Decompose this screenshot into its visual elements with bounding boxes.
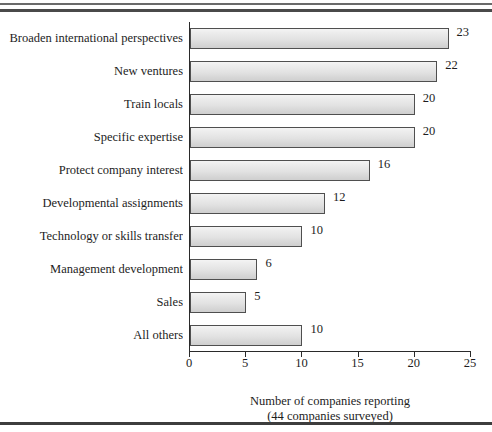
category-label: Sales [0,286,183,319]
bar-value-label: 10 [310,220,323,241]
bar-value-label: 5 [254,286,260,307]
bar [190,61,437,82]
bar-fill [190,292,246,313]
x-tick-label: 0 [169,356,209,371]
bar [190,226,302,247]
bar-row: Protect company interest16 [0,154,492,187]
bar-fill [190,94,415,115]
category-label: Protect company interest [0,154,183,187]
bottom-rule [0,422,492,425]
x-tick-label: 10 [281,356,321,371]
category-label: Developmental assignments [0,187,183,220]
caption-line-1: Number of companies reporting [189,394,471,409]
bar-value-label: 16 [378,154,391,175]
bar [190,325,302,346]
bar-fill [190,193,325,214]
x-tick-label: 25 [450,356,490,371]
bar-row: Train locals20 [0,88,492,121]
x-tick-label: 20 [394,356,434,371]
bar-fill [190,325,302,346]
bar-value-label: 20 [423,121,436,142]
bar-row: Specific expertise20 [0,121,492,154]
x-tick-label: 15 [338,356,378,371]
bar-row: Developmental assignments12 [0,187,492,220]
bar-row: Broaden international perspectives23 [0,22,492,55]
top-rule-upper [0,3,492,5]
bar-row: Technology or skills transfer10 [0,220,492,253]
bar-value-label: 6 [265,253,271,274]
bar-fill [190,61,437,82]
bar-value-label: 23 [457,22,470,43]
bar [190,259,257,280]
bar [190,94,415,115]
bar [190,193,325,214]
bar-fill [190,28,449,49]
bar-fill [190,127,415,148]
category-label: Technology or skills transfer [0,220,183,253]
bar [190,28,449,49]
bar-row: Management development6 [0,253,492,286]
top-rule-lower [0,9,492,12]
category-label: Broaden international perspectives [0,22,183,55]
category-label: All others [0,319,183,352]
bar-value-label: 20 [423,88,436,109]
axis-caption: Number of companies reporting (44 compan… [189,394,471,424]
bar-value-label: 22 [445,55,458,76]
bar-row: All others10 [0,319,492,352]
category-label: New ventures [0,55,183,88]
category-label: Specific expertise [0,121,183,154]
bar-fill [190,160,370,181]
x-tick-label: 5 [225,356,265,371]
bar [190,292,246,313]
bar-value-label: 12 [333,187,346,208]
plot-area: Broaden international perspectives23New … [0,18,492,358]
bar-row: Sales5 [0,286,492,319]
bar [190,127,415,148]
bar-row: New ventures22 [0,55,492,88]
figure-container: Broaden international perspectives23New … [0,0,492,432]
category-label: Management development [0,253,183,286]
bar [190,160,370,181]
bar-value-label: 10 [310,319,323,340]
bar-fill [190,226,302,247]
category-label: Train locals [0,88,183,121]
bar-fill [190,259,257,280]
